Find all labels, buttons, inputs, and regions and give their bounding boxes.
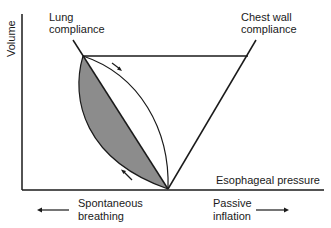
- chest-wall-compliance-line: [168, 40, 256, 189]
- spontaneous-label-line1: Spontaneous: [78, 197, 143, 209]
- chest-wall-label-line2: compliance: [241, 23, 297, 35]
- arrow-down-right-icon: [112, 63, 122, 71]
- arrow-right-icon: [256, 208, 289, 213]
- lung-compliance-label-line2: compliance: [49, 23, 105, 35]
- lung-compliance-label-line1: Lung: [49, 11, 73, 23]
- spontaneous-label-line2: breathing: [78, 210, 124, 222]
- chest-wall-label-line1: Chest wall: [241, 11, 292, 23]
- passive-label-line1: Passive: [213, 197, 252, 209]
- arrow-left-icon: [37, 208, 69, 213]
- y-axis-label: Volume: [5, 20, 17, 57]
- x-axis-label: Esophageal pressure: [216, 174, 320, 186]
- pressure-volume-diagram: Volume Lung compliance Chest wall compli…: [0, 0, 331, 228]
- passive-label-line2: inflation: [213, 210, 251, 222]
